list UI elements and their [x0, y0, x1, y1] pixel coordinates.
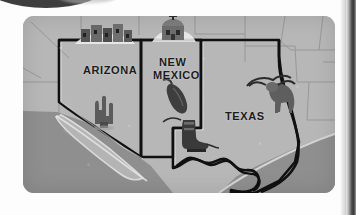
southwest-map-plate: ARIZONA NEW MEXICO TEXAS	[23, 16, 335, 193]
map-figure: ARIZONA NEW MEXICO TEXAS	[0, 0, 356, 215]
label-new-mexico-line2: MEXICO	[153, 69, 200, 81]
map-vignette	[23, 16, 335, 193]
label-new-mexico-line1: NEW	[159, 56, 186, 68]
scanned-page-edge	[346, 0, 356, 215]
label-texas: TEXAS	[225, 110, 265, 122]
label-arizona: ARIZONA	[83, 64, 137, 76]
